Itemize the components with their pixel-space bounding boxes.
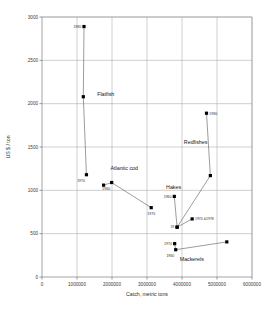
- y-tick-label: 2000: [28, 101, 39, 106]
- chart-container: 19801970196019701960191970 &197819801970…: [0, 0, 269, 314]
- data-point-marker: [82, 95, 85, 98]
- data-point-label: 1970 &1978: [195, 217, 214, 221]
- y-tick-label: 3000: [28, 15, 39, 20]
- data-point-marker: [85, 173, 88, 176]
- data-point-marker: [173, 195, 176, 198]
- x-axis-title: Catch, metric tons: [126, 291, 168, 297]
- data-point-label: 1980: [73, 25, 81, 29]
- x-tick-label: 6000000: [243, 282, 261, 287]
- data-point-marker: [110, 181, 113, 184]
- x-tick-label: 0: [41, 282, 44, 287]
- data-point-label: 1960: [166, 254, 174, 258]
- data-point-marker: [173, 242, 176, 245]
- data-point-marker: [82, 25, 85, 28]
- series-labels: FlatfishAtlantic codHakesRedfishesMacker…: [97, 91, 208, 263]
- data-point-label: 1970: [147, 212, 155, 216]
- series-label-flatfish: Flatfish: [97, 91, 114, 97]
- data-point-marker: [205, 112, 208, 115]
- data-point-label: 1960: [164, 195, 172, 199]
- data-point-marker: [150, 206, 153, 209]
- scatter-chart: 19801970196019701960191970 &197819801970…: [0, 0, 269, 314]
- y-axis-title-group: US $ / ton: [5, 135, 11, 158]
- data-point-marker: [225, 240, 228, 243]
- series-line-atlantic-cod: [104, 183, 152, 208]
- data-point-marker: [191, 217, 194, 220]
- tick-labels: 0500100015002000250030000100000020000003…: [28, 15, 262, 287]
- data-point-label: 19: [170, 225, 174, 229]
- series-line-flatfish: [83, 27, 86, 175]
- x-tick-label: 4000000: [173, 282, 191, 287]
- data-point-label: 1970: [164, 242, 172, 246]
- y-axis-title: US $ / ton: [5, 135, 11, 158]
- data-point-marker: [174, 248, 177, 251]
- y-tick-label: 1500: [28, 145, 39, 150]
- axis-ticks: [40, 17, 253, 280]
- x-tick-label: 3000000: [138, 282, 156, 287]
- y-tick-label: 0: [35, 275, 38, 280]
- data-point-marker: [209, 174, 212, 177]
- series-label-mackerels: Mackerels: [180, 256, 204, 262]
- x-tick-label: 1000000: [68, 282, 86, 287]
- y-tick-label: 1000: [28, 188, 39, 193]
- axis-titles: Catch, metric tonsUS $ / ton: [5, 135, 168, 297]
- series-line-mackerels: [175, 242, 227, 250]
- data-point-label: 1960: [102, 187, 110, 191]
- series-label-redfishes: Redfishes: [184, 139, 208, 145]
- data-point-marker: [176, 226, 179, 229]
- data-point-label: 1970: [77, 179, 85, 183]
- series-label-atlantic-cod: Atlantic cod: [111, 165, 138, 171]
- series-line-hakes: [174, 196, 192, 227]
- series-label-hakes: Hakes: [166, 184, 181, 190]
- grid-lines: [42, 17, 252, 277]
- y-tick-label: 2500: [28, 58, 39, 63]
- data-point-label: 1980: [209, 112, 217, 116]
- x-tick-label: 2000000: [103, 282, 121, 287]
- y-tick-label: 500: [30, 231, 38, 236]
- x-tick-label: 5000000: [208, 282, 226, 287]
